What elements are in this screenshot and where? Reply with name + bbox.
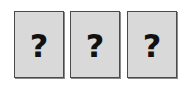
mystery-card-3[interactable]: ? — [127, 11, 177, 78]
question-mark-icon: ? — [30, 30, 49, 62]
question-mark-icon: ? — [86, 30, 105, 62]
mystery-card-2[interactable]: ? — [70, 11, 120, 78]
mystery-card-1[interactable]: ? — [14, 11, 64, 78]
question-mark-icon: ? — [143, 30, 162, 62]
